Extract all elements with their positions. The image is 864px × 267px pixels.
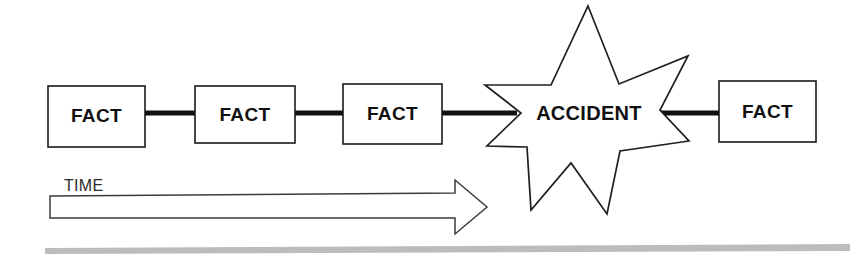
accident-label: ACCIDENT xyxy=(536,102,642,124)
node-fact-1[interactable]: FACT xyxy=(48,86,145,147)
time-axis-label: TIME xyxy=(64,177,103,194)
fact-3-label: FACT xyxy=(367,103,418,124)
time-arrow-shape xyxy=(50,180,487,234)
diagram-canvas: FACT FACT FACT ACCIDENT FACT TIME xyxy=(0,0,864,267)
node-fact-4[interactable]: FACT xyxy=(719,81,816,142)
node-accident[interactable]: ACCIDENT xyxy=(485,6,689,214)
node-fact-2[interactable]: FACT xyxy=(195,86,295,143)
node-fact-3[interactable]: FACT xyxy=(343,84,442,144)
fact-4-label: FACT xyxy=(742,101,793,122)
accident-sequence-diagram: FACT FACT FACT ACCIDENT FACT TIME xyxy=(0,0,864,267)
time-axis-arrow: TIME xyxy=(50,177,487,234)
fact-1-label: FACT xyxy=(71,105,122,126)
fact-2-label: FACT xyxy=(219,104,270,125)
baseline-divider xyxy=(45,244,850,254)
